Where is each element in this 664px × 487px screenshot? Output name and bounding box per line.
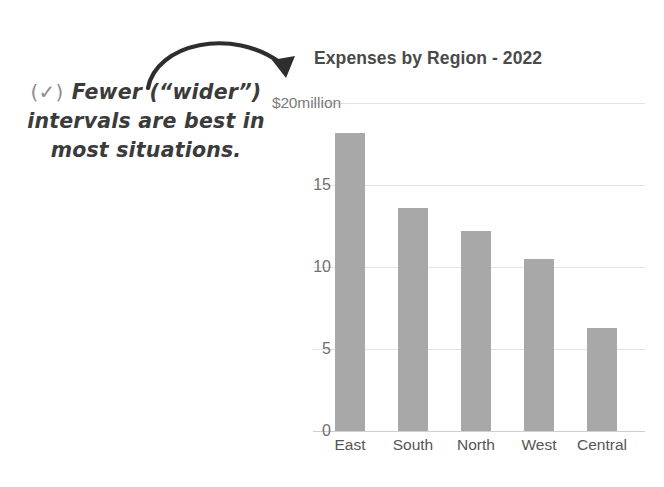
bar-east[interactable] [335,133,365,431]
bar-chart: Expenses by Region - 2022 $20million 15 … [272,40,664,487]
x-axis-label-north: North [444,436,508,454]
y-axis-label-20-unit: million [297,94,341,111]
annotation-line-3: most situations. [12,136,280,165]
y-axis-label-10: 10 [313,258,331,276]
bar-west[interactable] [524,259,554,431]
y-axis-label-5: 5 [322,340,331,358]
y-axis-label-20: $20million [272,94,341,112]
bar-central[interactable] [587,328,617,431]
x-axis-label-central: Central [570,436,634,454]
y-axis-label-15: 15 [313,176,331,194]
gridline-20 [313,103,645,104]
bar-south[interactable] [398,208,428,431]
x-axis-label-east: East [318,436,382,454]
chart-title: Expenses by Region - 2022 [314,48,542,69]
x-axis-label-west: West [507,436,571,454]
bar-north[interactable] [461,231,491,431]
axis-baseline [313,431,645,432]
check-mark-icon: (✓) [31,80,64,104]
annotation-line-2: intervals are best in [12,107,280,136]
y-axis-label-20-value: $20 [272,94,297,111]
x-axis-label-south: South [381,436,445,454]
